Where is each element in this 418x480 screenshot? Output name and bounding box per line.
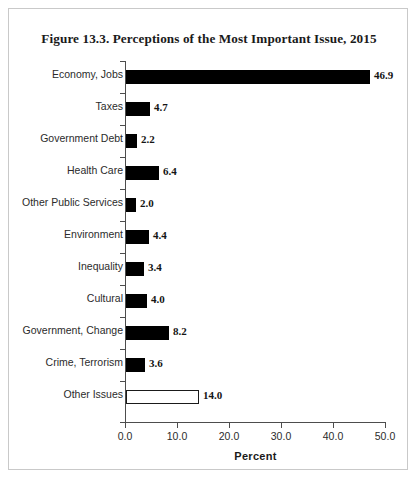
- category-label: Government, Change: [23, 324, 123, 336]
- bar-crime-terrorism: [126, 358, 145, 372]
- category-label: Economy, Jobs: [52, 68, 123, 80]
- bar-row: Health Care 6.4: [9, 157, 409, 189]
- bar-inequality: [126, 262, 144, 276]
- bar-government-debt: [126, 134, 137, 148]
- category-label: Inequality: [78, 260, 123, 272]
- x-axis-line: [125, 422, 386, 423]
- category-label: Taxes: [96, 100, 123, 112]
- bar-row: Government Debt 2.2: [9, 125, 409, 157]
- bar-taxes: [126, 102, 150, 116]
- x-axis-tick-label: 50.0: [355, 430, 415, 442]
- bar-economy-jobs: [126, 70, 370, 84]
- bar-row: Other Issues 14.0: [9, 381, 409, 413]
- x-axis-tick: [125, 423, 126, 428]
- x-axis-tick: [333, 423, 334, 428]
- x-axis-tick: [281, 423, 282, 428]
- category-label: Crime, Terrorism: [46, 356, 123, 368]
- bar-row: Cultural 4.0: [9, 285, 409, 317]
- bar-value-label: 3.6: [149, 357, 163, 369]
- bar-row: Economy, Jobs 46.9: [9, 61, 409, 93]
- bar-row: Other Public Services 2.0: [9, 189, 409, 221]
- bar-value-label: 8.2: [173, 325, 187, 337]
- x-axis-title: Percent: [125, 450, 386, 462]
- bar-other-public-services: [126, 198, 136, 212]
- figure-frame: Figure 13.3. Perceptions of the Most Imp…: [8, 8, 408, 470]
- bar-value-label: 4.4: [153, 229, 167, 241]
- x-axis-tick: [229, 423, 230, 428]
- bar-row: Environment 4.4: [9, 221, 409, 253]
- bar-health-care: [126, 166, 159, 180]
- bar-value-label: 3.4: [148, 261, 162, 273]
- bar-value-label: 46.9: [374, 69, 393, 81]
- category-label: Other Issues: [63, 388, 123, 400]
- category-label: Health Care: [67, 164, 123, 176]
- bar-value-label: 4.0: [151, 293, 165, 305]
- bar-value-label: 2.0: [140, 197, 154, 209]
- x-axis-tick-label: 40.0: [303, 430, 363, 442]
- bar-value-label: 14.0: [203, 389, 222, 401]
- x-axis-tick: [177, 423, 178, 428]
- x-axis-tick-label: 10.0: [147, 430, 207, 442]
- category-label: Other Public Services: [22, 196, 123, 208]
- bar-row: Government, Change 8.2: [9, 317, 409, 349]
- bar-government-change: [126, 326, 169, 340]
- x-axis-tick-label: 30.0: [251, 430, 311, 442]
- bar-environment: [126, 230, 149, 244]
- bar-row: Inequality 3.4: [9, 253, 409, 285]
- bar-value-label: 2.2: [141, 133, 155, 145]
- x-axis-tick-label: 20.0: [199, 430, 259, 442]
- bar-other-issues: [126, 390, 199, 404]
- bar-row: Crime, Terrorism 3.6: [9, 349, 409, 381]
- category-label: Cultural: [87, 292, 123, 304]
- x-axis-tick-label: 0.0: [95, 430, 155, 442]
- x-axis-tick: [385, 423, 386, 428]
- category-label: Environment: [64, 228, 123, 240]
- bar-cultural: [126, 294, 147, 308]
- category-label: Government Debt: [40, 132, 123, 144]
- bar-value-label: 4.7: [154, 101, 168, 113]
- bar-chart-plot-area: Economy, Jobs 46.9 Taxes 4.7 Government …: [9, 9, 409, 471]
- bar-value-label: 6.4: [163, 165, 177, 177]
- bar-row: Taxes 4.7: [9, 93, 409, 125]
